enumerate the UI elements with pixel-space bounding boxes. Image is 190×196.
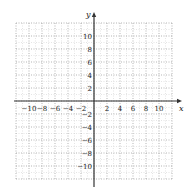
- y-tick-label: 8: [88, 46, 92, 54]
- y-tick-label: −4: [82, 124, 93, 132]
- x-tick-labels: −10−8−6−4−2246810: [22, 105, 164, 113]
- x-tick-label: 10: [155, 105, 164, 113]
- y-tick-label: 4: [88, 72, 93, 80]
- axes: x y: [14, 10, 184, 187]
- y-tick-label: 6: [88, 59, 93, 67]
- y-tick-label: −6: [82, 137, 93, 145]
- x-tick-label: −4: [63, 105, 74, 113]
- x-tick-label: 8: [144, 105, 148, 113]
- y-axis-arrow-icon: [92, 12, 96, 17]
- y-axis-label: y: [85, 10, 91, 19]
- x-axis-label: x: [179, 104, 184, 113]
- x-axis-arrow-icon: [177, 99, 182, 103]
- y-tick-label: −10: [77, 163, 92, 171]
- y-tick-label: −2: [82, 111, 92, 119]
- coordinate-grid: x y −10−8−6−4−2246810 108642−2−4−6−8−10: [0, 0, 190, 196]
- y-tick-label: −8: [82, 150, 92, 158]
- x-tick-label: 4: [118, 105, 123, 113]
- y-tick-label: 2: [88, 85, 92, 93]
- y-tick-label: 10: [83, 33, 92, 41]
- x-tick-label: −6: [50, 105, 61, 113]
- x-tick-label: 2: [105, 105, 109, 113]
- x-tick-label: 6: [131, 105, 136, 113]
- x-tick-label: −10: [22, 105, 37, 113]
- x-tick-label: −8: [37, 105, 47, 113]
